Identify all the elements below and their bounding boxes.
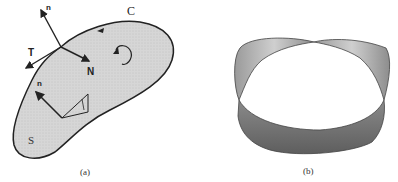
label-normal-top: n <box>46 3 51 12</box>
caption-a: (a) <box>80 167 90 177</box>
surface-s <box>13 21 173 158</box>
mobius-band-back-left <box>235 38 314 100</box>
figure-a: C n T N n S (a) <box>13 3 173 177</box>
label-curve-normal: N <box>87 66 94 77</box>
caption-b: (b) <box>303 166 314 176</box>
figure-b: (b) <box>235 38 390 176</box>
label-surface-s: S <box>28 134 34 146</box>
label-tangent: T <box>28 47 34 58</box>
normal-vector-n-top <box>41 10 61 47</box>
figure-canvas: C n T N n S (a) (b) <box>0 0 398 182</box>
mobius-band-back-right <box>314 40 390 100</box>
label-normal-inner: n <box>37 79 42 88</box>
mobius-band-front <box>238 100 385 154</box>
label-curve-c: C <box>127 4 135 18</box>
